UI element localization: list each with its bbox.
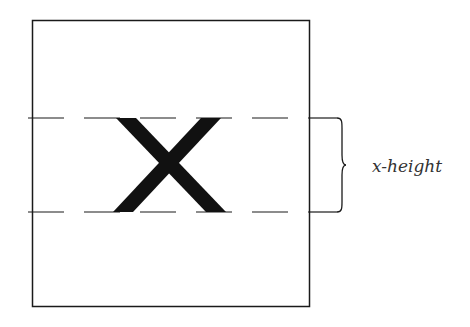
x-height-label: x-height [372,156,442,176]
curly-brace-icon [337,118,346,212]
x-glyph [113,118,226,212]
x-height-diagram: x-height [0,0,470,327]
